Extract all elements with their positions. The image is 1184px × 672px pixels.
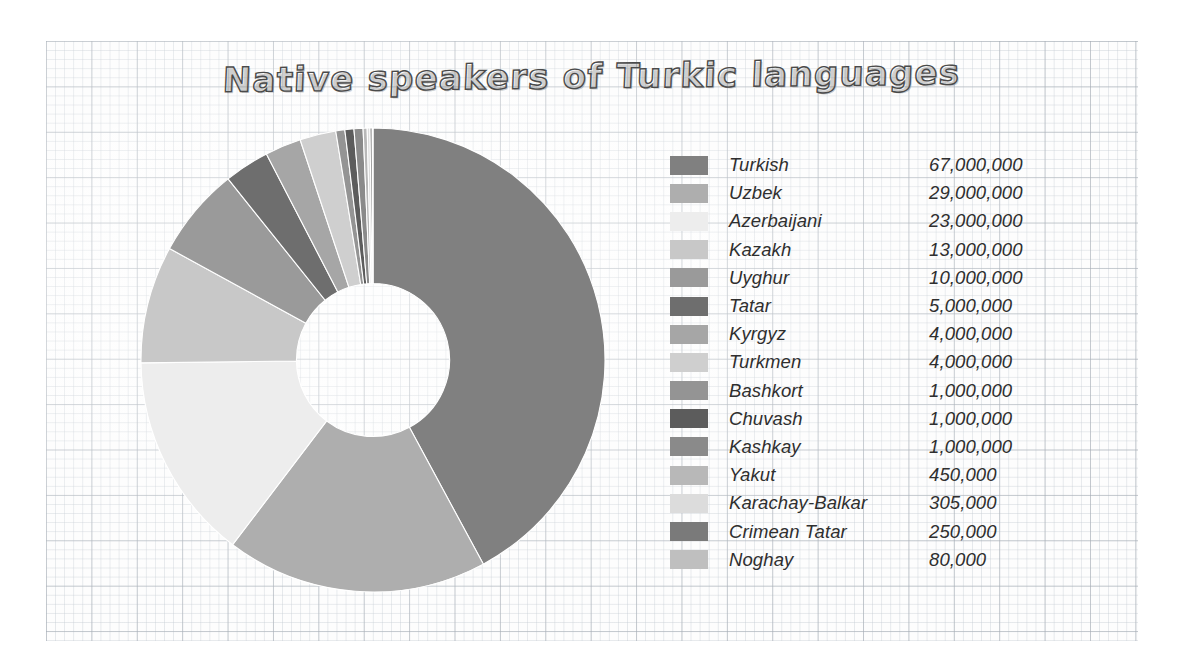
legend-label: Uyghur bbox=[729, 267, 929, 289]
legend-value: 23,000,000 bbox=[929, 210, 1023, 232]
legend-value: 10,000,000 bbox=[929, 267, 1023, 289]
legend-label: Karachay-Balkar bbox=[729, 492, 929, 514]
legend-color-swatch bbox=[670, 409, 708, 428]
legend-value: 250,000 bbox=[929, 521, 997, 543]
legend-value: 5,000,000 bbox=[929, 295, 1012, 317]
legend-row: Kazakh13,000,000 bbox=[670, 236, 1090, 264]
legend-color-swatch bbox=[670, 381, 708, 400]
donut-chart-svg bbox=[139, 118, 607, 602]
legend-color-swatch bbox=[670, 466, 708, 485]
chart-canvas: Native speakers of Turkic languages Turk… bbox=[0, 0, 1184, 672]
legend-color-swatch bbox=[670, 550, 708, 569]
chart-legend: Turkish67,000,000Uzbek29,000,000Azerbaij… bbox=[670, 151, 1090, 574]
legend-value: 1,000,000 bbox=[929, 380, 1012, 402]
legend-row: Yakut450,000 bbox=[670, 461, 1090, 489]
legend-label: Noghay bbox=[729, 549, 929, 571]
legend-value: 305,000 bbox=[929, 492, 997, 514]
legend-row: Kashkay1,000,000 bbox=[670, 433, 1090, 461]
legend-color-swatch bbox=[670, 437, 708, 456]
legend-value: 29,000,000 bbox=[929, 182, 1023, 204]
legend-color-swatch bbox=[670, 240, 708, 259]
legend-label: Crimean Tatar bbox=[729, 521, 929, 543]
legend-row: Turkish67,000,000 bbox=[670, 151, 1090, 179]
legend-color-swatch bbox=[670, 268, 708, 287]
legend-color-swatch bbox=[670, 522, 708, 541]
legend-row: Turkmen4,000,000 bbox=[670, 348, 1090, 376]
donut-slice bbox=[372, 128, 373, 283]
legend-color-swatch bbox=[670, 184, 708, 203]
legend-color-swatch bbox=[670, 156, 708, 175]
legend-value: 13,000,000 bbox=[929, 239, 1023, 261]
legend-row: Tatar5,000,000 bbox=[670, 292, 1090, 320]
legend-label: Turkish bbox=[729, 154, 929, 176]
legend-label: Chuvash bbox=[729, 408, 929, 430]
legend-color-swatch bbox=[670, 353, 708, 372]
donut-chart bbox=[139, 118, 607, 602]
legend-value: 80,000 bbox=[929, 549, 986, 571]
legend-color-swatch bbox=[670, 494, 708, 513]
legend-row: Bashkort1,000,000 bbox=[670, 377, 1090, 405]
legend-value: 450,000 bbox=[929, 464, 997, 486]
legend-label: Kyrgyz bbox=[729, 323, 929, 345]
legend-label: Kazakh bbox=[729, 239, 929, 261]
donut-slice-group bbox=[141, 128, 605, 592]
legend-row: Kyrgyz4,000,000 bbox=[670, 320, 1090, 348]
legend-label: Uzbek bbox=[729, 182, 929, 204]
legend-color-swatch bbox=[670, 325, 708, 344]
legend-row: Chuvash1,000,000 bbox=[670, 405, 1090, 433]
legend-value: 1,000,000 bbox=[929, 408, 1012, 430]
legend-label: Turkmen bbox=[729, 351, 929, 373]
legend-label: Yakut bbox=[729, 464, 929, 486]
legend-label: Kashkay bbox=[729, 436, 929, 458]
legend-label: Bashkort bbox=[729, 380, 929, 402]
legend-label: Azerbaijani bbox=[729, 210, 929, 232]
legend-row: Karachay-Balkar305,000 bbox=[670, 489, 1090, 517]
legend-label: Tatar bbox=[729, 295, 929, 317]
legend-value: 4,000,000 bbox=[929, 351, 1012, 373]
legend-row: Noghay80,000 bbox=[670, 546, 1090, 574]
legend-row: Uyghur10,000,000 bbox=[670, 264, 1090, 292]
legend-value: 1,000,000 bbox=[929, 436, 1012, 458]
legend-row: Uzbek29,000,000 bbox=[670, 179, 1090, 207]
legend-color-swatch bbox=[670, 297, 708, 316]
legend-value: 67,000,000 bbox=[929, 154, 1023, 176]
legend-color-swatch bbox=[670, 212, 708, 231]
legend-row: Crimean Tatar250,000 bbox=[670, 517, 1090, 545]
legend-row: Azerbaijani23,000,000 bbox=[670, 207, 1090, 235]
legend-value: 4,000,000 bbox=[929, 323, 1012, 345]
